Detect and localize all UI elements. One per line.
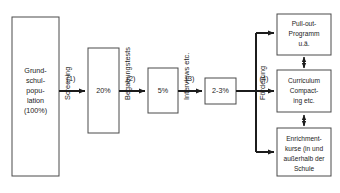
box-population-line-1: schul- <box>26 76 46 85</box>
box-enrichment-line-2: außerhalb der <box>283 155 325 162</box>
box-population-line-2: popu- <box>26 86 45 95</box>
flow-diagram: Grund- schul- popu- lation (100%) 20% 5%… <box>0 0 340 193</box>
box-stage-20-label: 20% <box>96 86 111 95</box>
box-enrichment-line-3: Schule <box>294 165 314 172</box>
box-stage-5-label: 5% <box>158 86 169 95</box>
box-population-line-0: Grund- <box>24 66 47 75</box>
step-4-label: Förderung <box>258 66 267 100</box>
box-pull-out-line-0: Pull-out- <box>292 20 317 27</box>
box-curriculum-line-2: ing etc. <box>293 97 314 105</box>
box-curriculum-line-1: Compact- <box>290 87 319 95</box>
box-pull-out-line-2: u.ä. <box>299 40 310 47</box>
box-stage-2-3-label: 2-3% <box>212 86 229 95</box>
box-population-line-4: (100%) <box>24 106 47 115</box>
box-population-line-3: lation <box>27 96 44 105</box>
box-curriculum-line-0: Curriculum <box>288 77 320 84</box>
step-3-label: Interviews etc. <box>182 53 191 100</box>
box-enrichment-line-0: Enrichment- <box>286 135 322 142</box>
step-2-label: Begabungstests <box>123 47 132 100</box>
diagram-canvas: Grund- schul- popu- lation (100%) 20% 5%… <box>0 0 340 193</box>
step-1-label: Screening <box>63 67 72 100</box>
box-enrichment-line-1: kurse (in und <box>285 145 323 153</box>
box-pull-out-line-1: Programm <box>289 30 320 38</box>
